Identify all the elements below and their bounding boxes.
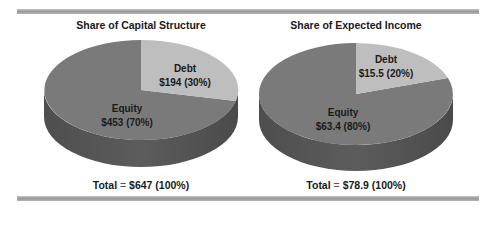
left-debt-label: Debt [174, 63, 197, 74]
right-total-value: $78.9 (100%) [343, 179, 406, 191]
right-debt-value: $15.5 (20%) [359, 68, 413, 79]
left-debt-value: $194 (30%) [159, 77, 211, 88]
left-total-value: $647 (100%) [129, 179, 189, 191]
right-total: Total = $78.9 (100%) [256, 179, 456, 191]
right-total-prefix: Total [306, 179, 330, 191]
right-total-equals: = [334, 179, 340, 191]
right-equity-value: $63.4 (80%) [316, 121, 370, 132]
left-total-equals: = [120, 179, 126, 191]
bottom-divider-bar [17, 196, 479, 201]
left-equity-value: $453 (70%) [101, 117, 153, 128]
right-debt-label: Debt [375, 54, 398, 65]
left-total: Total = $647 (100%) [41, 179, 241, 191]
left-total-prefix: Total [93, 179, 117, 191]
left-pie: Debt $194 (30%) Equity $453 (70%) [44, 40, 238, 167]
right-equity-label: Equity [328, 107, 359, 118]
right-pie: Debt $15.5 (20%) Equity $63.4 (80%) [259, 43, 453, 171]
left-equity-label: Equity [112, 103, 143, 114]
